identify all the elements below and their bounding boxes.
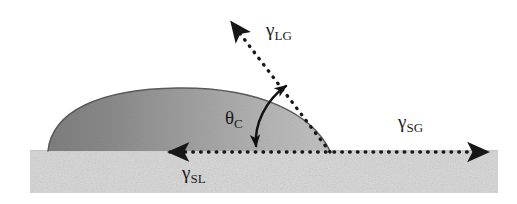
gamma-sl-subscript: SL xyxy=(190,171,206,186)
theta-c-subscript: C xyxy=(234,116,243,131)
gamma-sg-subscript: SG xyxy=(406,120,423,135)
substrate-slab xyxy=(30,150,498,193)
label-gamma-sl: γSL xyxy=(182,163,206,185)
theta-c-symbol: θ xyxy=(225,107,234,128)
contact-angle-figure: γLG γSG γSL θC xyxy=(0,0,517,204)
gamma-lg-subscript: LG xyxy=(274,28,292,43)
label-theta-c: θC xyxy=(225,108,243,130)
diagram-canvas xyxy=(0,0,517,204)
label-gamma-sg: γSG xyxy=(398,112,423,134)
label-gamma-lg: γLG xyxy=(266,20,292,42)
